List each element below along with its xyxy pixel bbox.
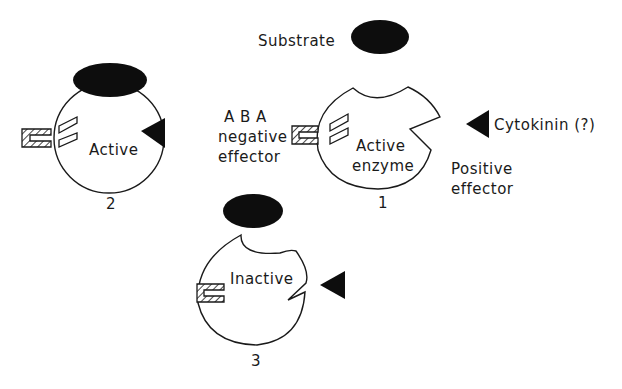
diagram-canvas: Substrate Active 2 Active enzyme 1 A B A… — [0, 0, 622, 389]
enzyme-3-detached-positive-effector — [320, 271, 345, 299]
enzyme-2-bound-substrate — [73, 63, 147, 97]
enzyme-1: Active enzyme 1 — [292, 87, 440, 212]
enzyme-2: Active 2 — [22, 63, 165, 213]
aba-label-line3: effector — [218, 148, 281, 166]
diagram-svg: Substrate Active 2 Active enzyme 1 A B A… — [0, 0, 622, 389]
enzyme-3-detached-substrate — [223, 194, 283, 228]
aba-label-line2: negative — [218, 128, 288, 146]
enzyme-2-state-label: Active — [89, 141, 138, 159]
enzyme-3-number: 3 — [251, 352, 261, 370]
substrate-label: Substrate — [258, 32, 335, 50]
enzyme-1-number: 1 — [378, 194, 388, 212]
aba-label-line1: A B A — [224, 108, 267, 126]
positive-effector-line2: effector — [451, 180, 514, 198]
cytokinin-label: Cytokinin (?) — [494, 116, 595, 134]
enzyme-2-aba-molecule — [22, 129, 51, 147]
cytokinin-molecule — [466, 110, 489, 138]
enzyme-3: Inactive 3 — [197, 194, 307, 370]
enzyme-1-aba-molecule — [292, 126, 318, 144]
enzyme-2-number: 2 — [106, 195, 116, 213]
positive-effector-line1: Positive — [451, 160, 513, 178]
substrate-molecule — [351, 20, 409, 54]
enzyme-1-state-line1: Active — [356, 137, 405, 155]
enzyme-1-state-line2: enzyme — [352, 157, 414, 175]
enzyme-3-state-label: Inactive — [230, 270, 294, 288]
